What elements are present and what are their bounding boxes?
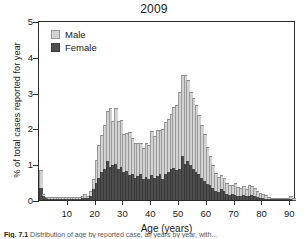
caption-prefix: Fig. 7.1 [4,231,28,238]
y-tick-1 [33,165,39,166]
x-tick-label-60: 60 [195,208,217,219]
x-tick-30 [122,200,123,205]
y-tick-label-1: 1 [17,160,33,169]
bar-segment-male [39,170,43,188]
x-tick-label-70: 70 [223,208,245,219]
x-tick-label-50: 50 [167,208,189,219]
x-tick-label-20: 20 [84,208,106,219]
x-tick-label-30: 30 [111,208,133,219]
y-tick-5 [33,22,39,23]
x-tick-label-10: 10 [56,208,78,219]
x-tick-label-40: 40 [139,208,161,219]
x-tick-80 [261,200,262,205]
x-tick-90 [289,200,290,205]
legend-label-female: Female [65,42,97,53]
x-tick-50 [178,200,179,205]
male-swatch-icon [51,30,60,39]
x-tick-20 [95,200,96,205]
x-tick-60 [206,200,207,205]
legend: Male Female [51,29,97,55]
y-tick-label-5: 5 [17,17,33,26]
bar-age-91 [292,199,295,200]
x-tick-label-80: 80 [250,208,272,219]
y-tick-label-4: 4 [17,53,33,62]
figure-caption: Fig. 7.1 Distribution of age by reported… [4,231,304,238]
legend-item-male: Male [51,29,97,40]
y-tick-4 [33,58,39,59]
plot-area: 012345 102030405060708090 Male Female [38,21,295,201]
caption-text: Distribution of age by reported case, al… [30,231,217,238]
x-tick-10 [67,200,68,205]
y-tick-label-3: 3 [17,89,33,98]
y-tick-3 [33,94,39,95]
x-tick-label-90: 90 [278,208,300,219]
chart-title: 2009 [0,2,308,16]
female-swatch-icon [51,43,60,52]
x-tick-40 [150,200,151,205]
y-tick-2 [33,129,39,130]
y-tick-label-2: 2 [17,124,33,133]
legend-label-male: Male [65,29,86,40]
y-tick-0 [33,201,39,202]
legend-item-female: Female [51,42,97,53]
y-tick-label-0: 0 [17,196,33,205]
figure-panel: 2009 % of total cases reported for year … [0,0,308,239]
x-tick-70 [234,200,235,205]
